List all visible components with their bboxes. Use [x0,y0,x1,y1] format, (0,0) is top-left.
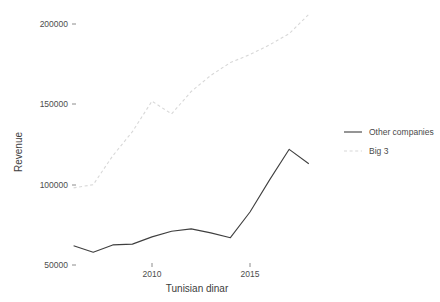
x-axis-tick-labels: 2010 2015 [143,269,260,279]
x-tick-label-2010: 2010 [143,269,162,279]
y-axis-ticks [72,24,76,265]
series-group [74,14,309,252]
legend-label-other-companies[interactable]: Other companies [369,127,434,137]
series-line-other-companies [74,149,309,252]
y-tick-label-50000: 50000 [44,260,68,270]
revenue-line-chart: 200000 150000 100000 50000 2010 2015 Tun… [0,0,440,302]
y-tick-label-150000: 150000 [40,99,69,109]
y-axis-title: Revenue [13,132,24,172]
chart-legend: Other companies Big 3 [344,127,434,156]
x-axis-title: Tunisian dinar [166,283,229,294]
y-axis-tick-labels: 200000 150000 100000 50000 [40,19,69,270]
y-tick-label-200000: 200000 [40,19,69,29]
y-tick-label-100000: 100000 [40,180,69,190]
x-axis-ticks [152,263,250,267]
legend-label-big-3[interactable]: Big 3 [369,146,389,156]
chart-canvas: 200000 150000 100000 50000 2010 2015 Tun… [0,0,440,302]
x-tick-label-2015: 2015 [241,269,260,279]
series-line-big-3 [74,14,309,188]
